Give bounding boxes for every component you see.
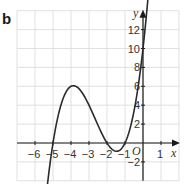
grid-lines [17,11,179,181]
x-tick-label: −6 [28,148,41,160]
x-tick-label: −3 [82,148,95,160]
y-tick-label: 8 [134,61,140,73]
x-tick-label: −2 [100,148,113,160]
axes [17,10,180,181]
y-tick-label: 10 [128,43,140,55]
x-tick-label: 1 [157,148,163,160]
y-tick-label: 2 [134,118,140,130]
x-axis-label: x [170,146,177,160]
x-tick-label: −4 [64,148,77,160]
y-tick-label: 12 [128,24,140,36]
cubic-graph: −6−5−4−3−2−1112108642−2Oxy [0,0,187,184]
origin-label: O [132,144,141,158]
y-axis-label: y [132,6,139,20]
